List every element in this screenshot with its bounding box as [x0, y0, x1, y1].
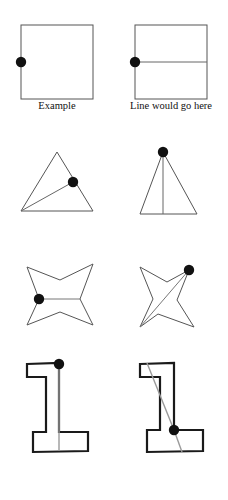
background [0, 0, 228, 500]
dot-marker [68, 177, 78, 187]
figure-canvas: Example Line would go here [0, 0, 228, 500]
dot-marker [158, 147, 168, 157]
dot-marker [34, 294, 44, 304]
dot-marker [184, 265, 194, 275]
dot-marker [54, 359, 64, 369]
dot-marker [16, 57, 26, 67]
dot-marker [169, 425, 179, 435]
shapes-svg [0, 0, 228, 500]
dot-marker [130, 57, 140, 67]
